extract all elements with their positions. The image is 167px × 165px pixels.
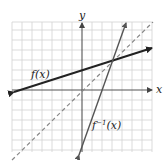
x-axis-label: x [156,83,163,96]
f-inverse-line [79,23,126,155]
f-inverse-sup: −1 [96,119,106,127]
f-inverse-arg: (x) [106,119,121,132]
f-inverse-label: f−1(x) [91,119,121,132]
y-axis-label: y [78,9,86,22]
f-label: f(x) [30,68,50,81]
graph: x y f(x) f−1(x) [0,0,167,165]
